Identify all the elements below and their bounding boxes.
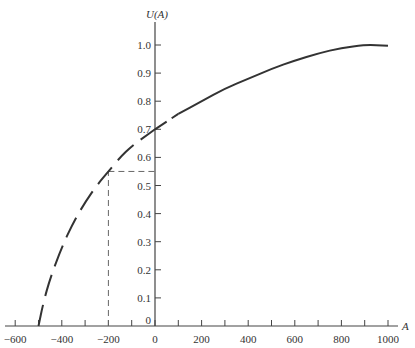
utility-chart: −600−400−2000200400600800100000.10.20.30…: [0, 0, 415, 348]
x-tick-label: 1000: [377, 333, 400, 345]
x-tick-label: 800: [333, 333, 350, 345]
tick-labels: −600−400−2000200400600800100000.10.20.30…: [4, 39, 400, 345]
x-tick-label: 400: [240, 333, 257, 345]
y-tick-label: 0.9: [137, 67, 151, 79]
y-tick-label: 0: [146, 314, 152, 326]
x-tick-label: −400: [50, 333, 73, 345]
x-axis-title: A: [401, 320, 409, 332]
x-tick-label: 0: [152, 333, 158, 345]
curve-segment-dash: [155, 114, 178, 129]
y-tick-label: 0.2: [137, 264, 151, 276]
y-tick-label: 0.4: [137, 208, 151, 220]
x-tick-label: −600: [4, 333, 27, 345]
axes: [5, 22, 398, 326]
x-tick-label: 600: [287, 333, 304, 345]
y-tick-label: 0.8: [137, 95, 151, 107]
y-tick-label: 0.3: [137, 236, 151, 248]
y-tick-label: 1.0: [137, 39, 151, 51]
y-tick-label: 0.7: [137, 123, 151, 135]
y-tick-label: 0.6: [137, 151, 151, 163]
curve-segment-solid: [178, 45, 388, 114]
y-axis-title: U(A): [146, 8, 168, 21]
utility-curve: [39, 45, 389, 326]
y-tick-label: 0.1: [137, 292, 151, 304]
x-tick-label: 200: [193, 333, 210, 345]
x-tick-label: −200: [97, 333, 120, 345]
y-tick-label: 0.5: [137, 180, 151, 192]
